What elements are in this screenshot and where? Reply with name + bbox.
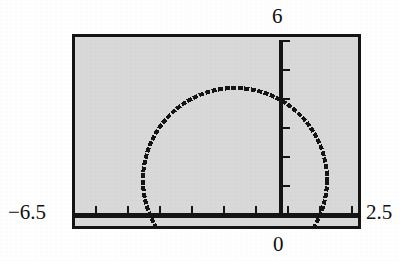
circle-outline (143, 88, 327, 229)
y-max-label: 6 (272, 6, 283, 27)
x-axis (72, 206, 361, 215)
x-min-label: −6.5 (8, 202, 46, 223)
plot-drawing (72, 34, 361, 229)
y-axis (281, 40, 290, 215)
circle-curve (143, 88, 327, 229)
y-min-label: 0 (273, 234, 284, 255)
x-max-label: 2.5 (366, 202, 392, 223)
figure-canvas: 6 −6.5 2.5 0 (0, 0, 400, 261)
